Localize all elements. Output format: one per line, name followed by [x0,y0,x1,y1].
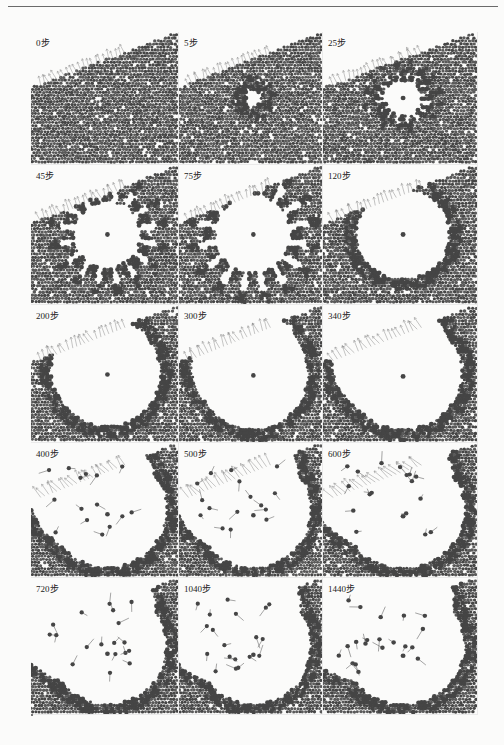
panel-step-label: 75步 [184,169,202,182]
simulation-panel: 0步 [31,32,179,165]
simulation-panel: 500步 [179,443,323,578]
particle-field [323,578,477,714]
simulation-panel: 300步 [179,305,323,443]
particle-field [31,305,178,442]
panel-step-label: 500步 [184,447,207,460]
simulation-panel: 5步 [179,32,323,165]
particle-field [179,32,322,164]
simulation-panel: 25步 [323,32,478,165]
simulation-panel: 200步 [31,305,179,443]
panel-step-label: 400步 [36,447,59,460]
panel-step-label: 5步 [184,36,198,49]
page-header-rule [8,6,498,7]
simulation-panel: 75步 [179,165,323,305]
panel-step-label: 720步 [36,582,59,595]
panel-step-label: 45步 [36,169,54,182]
particle-field [179,578,322,714]
panel-step-label: 600步 [328,447,351,460]
particle-field [179,443,322,577]
panel-step-label: 200步 [36,309,59,322]
particle-field [323,32,477,164]
panel-step-label: 120步 [328,169,351,182]
particle-field [323,165,477,304]
simulation-panel: 340步 [323,305,478,443]
simulation-panel: 45步 [31,165,179,305]
figure-corner-mark [31,714,33,716]
simulation-panel: 1440步 [323,578,478,715]
particle-field [31,443,178,577]
particle-field [31,32,178,164]
panel-step-label: 300步 [184,309,207,322]
particle-field [323,305,477,442]
panel-step-label: 25步 [328,36,346,49]
particle-field [323,443,477,577]
particle-field [31,165,178,304]
particle-field [179,165,322,304]
particle-field [31,578,178,714]
simulation-panel: 120步 [323,165,478,305]
simulation-panel: 720步 [31,578,179,715]
simulation-panel: 600步 [323,443,478,578]
simulation-figure-grid: 0步5步25步45步75步120步200步300步340步400步500步600… [31,32,478,715]
panel-step-label: 1440步 [328,582,355,595]
simulation-panel: 1040步 [179,578,323,715]
panel-step-label: 340步 [328,309,351,322]
panel-step-label: 0步 [36,36,50,49]
particle-field [179,305,322,442]
simulation-panel: 400步 [31,443,179,578]
panel-step-label: 1040步 [184,582,211,595]
